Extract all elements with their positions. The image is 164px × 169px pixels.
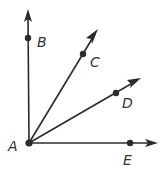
arrowhead-c-icon bbox=[86, 29, 98, 44]
angle-diagram: A B C D E bbox=[0, 0, 164, 169]
ray-ae bbox=[29, 139, 158, 147]
point-a bbox=[25, 139, 32, 146]
point-e bbox=[127, 140, 133, 146]
point-d bbox=[113, 90, 119, 96]
label-e: E bbox=[123, 152, 132, 168]
ray-ab bbox=[24, 9, 32, 143]
label-a: A bbox=[7, 138, 18, 154]
point-c bbox=[80, 51, 86, 57]
arrowhead-d-icon bbox=[127, 78, 141, 88]
label-d: D bbox=[122, 95, 133, 111]
label-b: B bbox=[37, 34, 47, 50]
point-b bbox=[25, 35, 31, 41]
label-c: C bbox=[90, 54, 100, 70]
